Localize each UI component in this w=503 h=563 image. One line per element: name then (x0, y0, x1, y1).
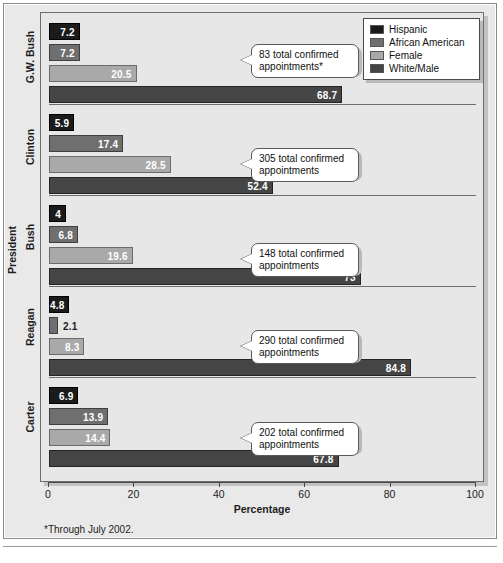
callout-tail-icon (241, 433, 252, 443)
bar-value-label: 2.1 (63, 320, 78, 331)
callout-box: 202 total confirmed appointments (251, 422, 359, 456)
bar[interactable] (49, 317, 58, 334)
x-tick-label: 60 (298, 488, 310, 500)
legend-swatch-icon (370, 51, 384, 60)
bar-value-label: 7.2 (60, 47, 75, 58)
legend-item[interactable]: Hispanic (370, 23, 473, 36)
y-category-label: Reagan (20, 282, 40, 372)
bar-value-label: 68.7 (317, 89, 337, 100)
x-tick-mark (133, 482, 134, 487)
bar-value-label: 17.4 (98, 138, 118, 149)
y-category-label-text: Reagan (24, 308, 36, 346)
legend-swatch-icon (370, 64, 384, 73)
x-axis-line (48, 482, 476, 483)
x-axis-title: Percentage (48, 503, 476, 515)
y-category-label: Bush (20, 192, 40, 282)
bar-value-label: 8.3 (65, 341, 80, 352)
x-tick-mark (48, 482, 49, 487)
x-tick-mark (219, 482, 220, 487)
callout-box: 148 total confirmed appointments (251, 243, 359, 277)
x-tick-label: 40 (213, 488, 225, 500)
legend-item[interactable]: White/Male (370, 62, 473, 75)
bar-row: 6.9 (49, 387, 476, 404)
legend-swatch-icon (370, 38, 384, 47)
figure-bottom-rule (3, 546, 497, 547)
x-tick-label: 0 (45, 488, 51, 500)
y-category-label-text: Bush (24, 224, 36, 250)
y-category-label-text: G.W. Bush (24, 31, 36, 84)
bar-value-label: 6.9 (59, 390, 74, 401)
bar-value-label: 7.2 (60, 26, 75, 37)
legend: HispanicAfrican AmericanFemaleWhite/Male (363, 18, 480, 80)
callout-tail-icon (241, 254, 252, 264)
chart-figure: 7.27.220.568.75.917.428.552.446.819.6734… (0, 0, 503, 563)
legend-item[interactable]: Female (370, 49, 473, 62)
bar[interactable] (49, 86, 342, 103)
bar-value-label: 28.5 (145, 159, 165, 170)
bar-value-label: 20.5 (111, 68, 131, 79)
callout-box: 305 total confirmed appointments (251, 148, 359, 182)
legend-swatch-icon (370, 25, 384, 34)
callout-tail-icon (241, 55, 252, 65)
bar-row: 68.7 (49, 86, 476, 103)
y-category-label: Clinton (20, 102, 40, 192)
x-tick-mark (390, 482, 391, 487)
bar-row: 5.9 (49, 114, 476, 131)
x-tick-label: 100 (466, 488, 484, 500)
bar-value-label: 4.8 (50, 299, 65, 310)
footnote: *Through July 2002. (44, 524, 134, 535)
bar-value-label: 13.9 (83, 411, 103, 422)
bar-value-label: 19.6 (107, 250, 127, 261)
y-category-label-text: Clinton (24, 129, 36, 165)
y-category-label: G.W. Bush (20, 12, 40, 102)
bar-row: 4.8 (49, 296, 476, 313)
y-category-label-text: Carter (24, 402, 36, 433)
y-category-label: Carter (20, 372, 40, 462)
x-tick-mark (304, 482, 305, 487)
x-tick-label: 80 (384, 488, 396, 500)
x-tick-mark (475, 482, 476, 487)
x-tick-label: 20 (128, 488, 140, 500)
y-axis-title: President (4, 190, 20, 310)
y-axis-title-text: President (6, 226, 18, 274)
legend-item-label: Hispanic (389, 24, 427, 35)
bar-value-label: 6.8 (59, 229, 74, 240)
callout-tail-icon (241, 159, 252, 169)
bar-value-label: 5.9 (55, 117, 70, 128)
legend-item-label: Female (389, 50, 422, 61)
callout-box: 290 total confirmed appointments (251, 330, 359, 364)
bar[interactable] (49, 177, 273, 194)
bar-value-label: 84.8 (386, 362, 406, 373)
bar-value-label: 4 (55, 208, 61, 219)
legend-item-label: African American (389, 37, 465, 48)
legend-item[interactable]: African American (370, 36, 473, 49)
bar-row: 6.8 (49, 226, 476, 243)
bar-row: 4 (49, 205, 476, 222)
y-category-labels: G.W. BushClintonBushReaganCarter (20, 12, 40, 472)
legend-item-label: White/Male (389, 63, 439, 74)
bar-value-label: 14.4 (85, 432, 105, 443)
callout-tail-icon (241, 341, 252, 351)
callout-box: 83 total confirmed appointments* (251, 44, 359, 78)
